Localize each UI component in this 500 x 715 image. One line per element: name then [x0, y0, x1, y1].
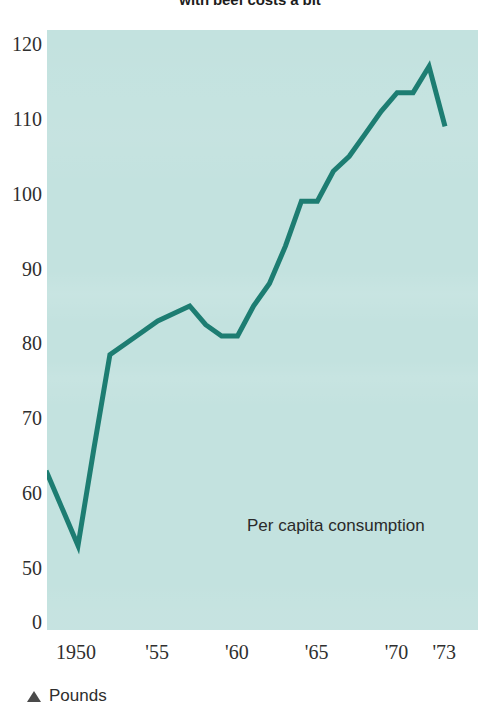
y-tick-90: 90: [0, 259, 42, 279]
x-tick-1965: '65: [305, 641, 329, 663]
y-tick-100: 100: [0, 184, 42, 204]
y-tick-110: 110: [0, 109, 42, 129]
x-tick-1960: '60: [225, 641, 249, 663]
y-tick-120: 120: [0, 34, 42, 54]
series-line-consumption: [47, 30, 478, 630]
y-tick-0: 0: [0, 612, 42, 632]
triangle-up-icon: [27, 691, 41, 702]
chart-caption: Pounds: [27, 686, 107, 706]
x-tick-1973: '73: [433, 641, 457, 663]
y-tick-50: 50: [0, 558, 42, 578]
chart-figure: with beef costs a bit Per capita consump…: [0, 0, 500, 715]
y-tick-60: 60: [0, 483, 42, 503]
x-tick-1955: '55: [145, 641, 169, 663]
y-tick-80: 80: [0, 333, 42, 353]
x-tick-1950: 1950: [56, 641, 96, 663]
chart-headline: with beef costs a bit: [0, 0, 500, 9]
y-tick-70: 70: [0, 408, 42, 428]
x-tick-1970: '70: [385, 641, 409, 663]
plot-area: Per capita consumption: [47, 30, 478, 630]
series-annotation-label: Per capita consumption: [247, 516, 425, 536]
caption-label: Pounds: [49, 686, 107, 706]
